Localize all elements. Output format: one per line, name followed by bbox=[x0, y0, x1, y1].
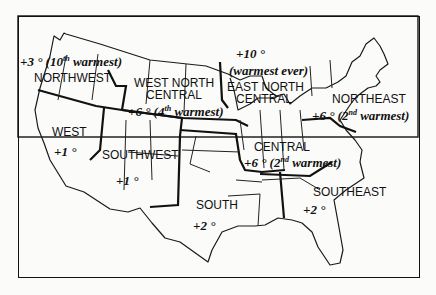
southwest-label: SOUTHWEST bbox=[102, 149, 179, 162]
southwest-anomaly: +1 ° bbox=[116, 174, 138, 188]
northwest-anomaly: +3 ° (10th warmest) bbox=[20, 52, 122, 69]
central-anomaly: +6 ° (2nd warmest) bbox=[244, 153, 341, 170]
wnc-label-2: CENTRAL bbox=[146, 89, 202, 102]
southeast-label: SOUTHEAST bbox=[313, 186, 386, 199]
west-label: WEST bbox=[52, 126, 87, 139]
southeast-anomaly: +2 ° bbox=[303, 203, 325, 217]
northeast-label: NORTHEAST bbox=[332, 93, 406, 106]
wnc-anomaly: +6 ° (4th warmest) bbox=[128, 102, 224, 119]
west-anomaly: +1 ° bbox=[54, 145, 76, 159]
northeast-anomaly: +6 ° (2nd warmest) bbox=[312, 106, 409, 123]
northwest-label: NORTHWEST bbox=[34, 72, 111, 85]
south-anomaly: +2 ° bbox=[193, 219, 215, 233]
enc-rank: (warmest ever) bbox=[229, 64, 308, 78]
enc-anomaly: +10 ° bbox=[236, 47, 265, 61]
enc-label-2: CENTRAL bbox=[236, 93, 292, 106]
south-label: SOUTH bbox=[196, 199, 238, 212]
